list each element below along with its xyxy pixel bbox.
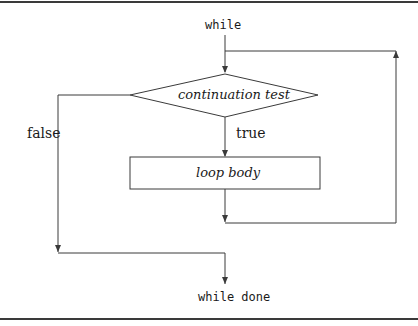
continuation-test-label: continuation test	[178, 88, 290, 101]
loop-body-label: loop body	[196, 166, 260, 179]
while-loop-flowchart	[0, 0, 418, 326]
true-label: true	[236, 126, 266, 140]
start-label: while	[205, 19, 241, 31]
false-label: false	[27, 126, 60, 140]
edge-start-to-condition	[222, 35, 228, 73]
edge-body-to-loopback	[222, 189, 228, 222]
edge-true	[222, 117, 228, 157]
end-label: while done	[198, 291, 270, 303]
